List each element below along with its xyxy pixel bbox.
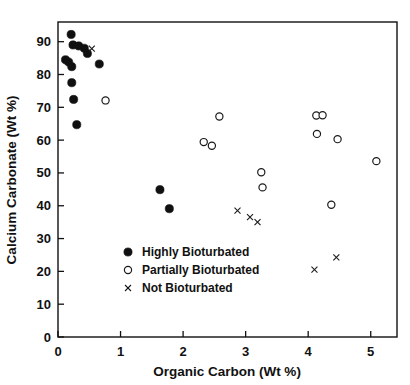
data-point [373,158,380,165]
data-point [259,184,266,191]
data-point [156,186,164,194]
x-tick-label: 4 [305,344,313,359]
data-point [95,60,103,68]
data-point [67,30,75,38]
y-tick-label: 70 [37,100,51,115]
y-tick-label: 0 [44,330,51,345]
scatter-plot-figure: 012345 0102030405060708090 Highly Biotur… [0,0,410,385]
data-point [70,95,78,103]
y-tick-label: 80 [37,67,51,82]
y-tick-label: 60 [37,133,51,148]
data-point [255,219,261,225]
data-point [68,63,76,71]
y-axis-tick-labels: 0102030405060708090 [37,34,51,344]
series-not-bioturbated [89,46,340,273]
data-point [235,208,241,214]
y-tick-label: 30 [37,231,51,246]
legend-marker [124,266,131,273]
x-tick-label: 2 [179,344,186,359]
series-partially-bioturbated [102,97,380,209]
y-tick-label: 40 [37,198,51,213]
data-point [89,46,95,52]
y-tick-label: 50 [37,165,51,180]
data-point [200,138,207,145]
legend-marker [125,285,131,291]
y-tick-label: 10 [37,297,51,312]
data-point [328,201,335,208]
legend: Highly BioturbatedPartially BioturbatedN… [124,245,259,295]
data-point [333,254,339,260]
data-points-layer [61,30,380,272]
data-point [319,112,326,119]
data-point [165,205,173,213]
x-axis-title: Organic Carbon (Wt %) [153,364,301,379]
data-point [68,79,76,87]
legend-marker [124,248,132,256]
legend-label: Not Bioturbated [142,281,233,295]
data-point [313,130,320,137]
legend-label: Highly Bioturbated [142,245,249,259]
y-axis-title: Calcium Carbonate (Wt %) [4,96,19,265]
x-tick-label: 1 [117,344,124,359]
x-tick-label: 3 [242,344,249,359]
data-point [208,142,215,149]
x-tick-label: 5 [367,344,374,359]
data-point [216,113,223,120]
data-point [258,169,265,176]
data-point [334,136,341,143]
x-axis-ticks [58,331,371,337]
plot-canvas: 012345 0102030405060708090 Highly Biotur… [0,0,410,385]
x-tick-label: 0 [54,344,61,359]
data-point [102,97,109,104]
data-point [73,121,81,129]
y-axis-ticks [58,42,64,337]
data-point [311,267,317,273]
x-axis-tick-labels: 012345 [54,344,374,359]
y-tick-label: 90 [37,34,51,49]
y-tick-label: 20 [37,264,51,279]
series-highly-bioturbated [61,30,173,212]
data-point [247,214,253,220]
legend-label: Partially Bioturbated [142,263,259,277]
